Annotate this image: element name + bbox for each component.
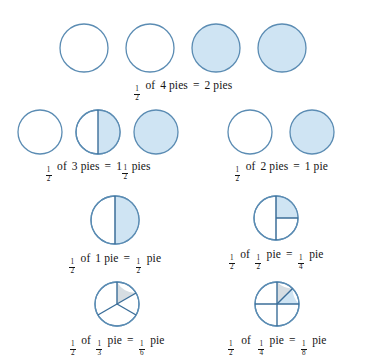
fraction-denominator: 6: [139, 349, 145, 358]
fraction-numerator: 1: [258, 341, 264, 349]
caption-quantity-unit: pie: [106, 334, 122, 346]
caption-result-unit: pie: [148, 334, 164, 346]
pie-group-1a: [0, 22, 366, 74]
pie-full: [256, 22, 308, 74]
fraction-pies-diagram: 1 2 of 4 pies = 2 pies: [0, 0, 366, 362]
caption-row-3b: 1 2 of 1 2 pie = 1 4 pie: [196, 248, 356, 271]
caption-equals: =: [122, 252, 133, 264]
pie-full: [132, 108, 180, 156]
pie-group-3b: 1 2 of 1 2 pie = 1 4 pie: [196, 194, 356, 271]
caption-equals: =: [125, 334, 136, 346]
fraction-denominator: 2: [46, 175, 52, 184]
caption-result-unit: pie: [310, 334, 326, 346]
caption-equals: =: [291, 160, 302, 172]
caption-equals: =: [103, 160, 114, 172]
caption-quantity-unit: pie: [268, 334, 284, 346]
fraction-denominator: 2: [136, 267, 142, 276]
fraction-numerator: 1: [228, 341, 234, 349]
fraction-one-half: 1 2: [229, 255, 235, 271]
pie-half: [74, 108, 122, 156]
pie-sixth-shaded: [93, 280, 141, 328]
fraction-denominator: 2: [70, 349, 76, 358]
caption-row-4b: 1 2 of 1 4 pie = 1 8 pie: [196, 334, 358, 357]
caption-row-2a: 1 2 of 3 pies = 1 1 2 pies: [8, 160, 188, 183]
fraction-denominator: 2: [228, 349, 234, 358]
fraction-one-half: 1 2: [122, 165, 128, 181]
fraction-numerator: 1: [229, 255, 235, 263]
pie-group-2b: 1 2 of 2 pies = 1 pie: [205, 108, 357, 183]
caption-of: of: [143, 79, 157, 91]
fraction-numerator: 1: [96, 341, 102, 349]
caption-of: of: [79, 334, 93, 346]
fraction-numerator: 1: [139, 341, 145, 349]
fraction-one-half: 1 2: [228, 341, 234, 357]
fraction-numerator: 1: [70, 341, 76, 349]
caption-equals: =: [191, 79, 202, 91]
caption-result-whole: 1: [116, 160, 122, 173]
pie-half-shaded: [89, 194, 141, 246]
fraction-denominator: 3: [96, 349, 102, 358]
caption-result: 1 1 2 pies: [116, 160, 151, 181]
fraction-one-half: 1 2: [235, 167, 241, 183]
caption-of: of: [238, 248, 252, 260]
caption-row-4a: 1 2 of 1 3 pie = 1 6 pie: [42, 334, 192, 357]
fraction-one-half: 1 2: [69, 259, 75, 275]
fraction-quantity: 1 2: [255, 255, 261, 271]
caption-of: of: [237, 334, 255, 346]
caption-of: of: [79, 252, 93, 264]
pie-empty: [124, 22, 176, 74]
fraction-one-half: 1 2: [134, 86, 140, 102]
caption-result: 1 pie: [305, 160, 328, 172]
fraction-denominator: 2: [134, 94, 140, 103]
caption-quantity: 2 pies: [260, 160, 288, 172]
fraction-quantity: 1 3: [96, 341, 102, 357]
caption-quantity: 3 pies: [72, 160, 100, 172]
pie-empty: [58, 22, 110, 74]
caption-of: of: [244, 160, 258, 172]
fraction-numerator: 1: [134, 86, 140, 94]
pie-group-3a: 1 2 of 1 pie = 1 2 pie: [40, 194, 190, 275]
caption-quantity: 4 pies: [160, 79, 188, 91]
caption-row-1: 1 2 of 4 pies = 2 pies: [0, 79, 366, 102]
pie-full: [288, 108, 336, 156]
fraction-numerator: 1: [255, 255, 261, 263]
fraction-denominator: 2: [235, 175, 241, 184]
fraction-denominator: 2: [229, 263, 235, 272]
fraction-denominator: 8: [301, 349, 307, 358]
fraction-result: 1 2: [136, 259, 142, 275]
fraction-quantity: 1 4: [258, 341, 264, 357]
caption-quantity-unit: pie: [265, 248, 281, 260]
fraction-numerator: 1: [69, 259, 75, 267]
pie-empty: [226, 108, 274, 156]
fraction-result: 1 8: [301, 341, 307, 357]
fraction-denominator: 4: [298, 263, 304, 272]
fraction-denominator: 2: [69, 267, 75, 276]
pie-quarter-shaded: [252, 194, 300, 242]
caption-equals: =: [287, 334, 298, 346]
caption-row-2b: 1 2 of 2 pies = 1 pie: [205, 160, 357, 183]
fraction-one-half: 1 2: [70, 341, 76, 357]
fraction-numerator: 1: [122, 165, 128, 173]
diagram-row-1: 1 2 of 4 pies = 2 pies: [0, 22, 366, 102]
pie-eighth-shaded: [253, 280, 301, 328]
fraction-numerator: 1: [235, 167, 241, 175]
fraction-result: 1 6: [139, 341, 145, 357]
pie-group-4b: 1 2 of 1 4 pie = 1 8 pie: [196, 280, 358, 357]
caption-of: of: [55, 160, 69, 172]
caption-equals: =: [284, 248, 295, 260]
fraction-numerator: 1: [301, 341, 307, 349]
pie-group-4a: 1 2 of 1 3 pie = 1 6 pie: [42, 280, 192, 357]
pie-full: [190, 22, 242, 74]
fraction-numerator: 1: [46, 167, 52, 175]
pie-group-2a: 1 2 of 3 pies = 1 1 2 pies: [8, 108, 188, 183]
caption-result-unit: pie: [145, 252, 161, 264]
caption-result-unit: pies: [129, 160, 151, 173]
fraction-numerator: 1: [298, 255, 304, 263]
caption-result: 2 pies: [205, 79, 233, 91]
fraction-numerator: 1: [136, 259, 142, 267]
fraction-denominator: 4: [258, 349, 264, 358]
fraction-denominator: 2: [255, 263, 261, 272]
caption-row-3a: 1 2 of 1 pie = 1 2 pie: [40, 252, 190, 275]
fraction-one-half: 1 2: [46, 167, 52, 183]
caption-quantity: 1 pie: [95, 252, 118, 264]
